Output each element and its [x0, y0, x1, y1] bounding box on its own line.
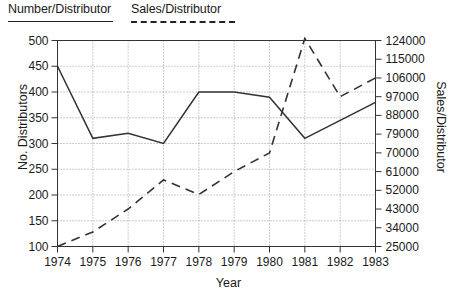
- x-axis-tick-label: 1983: [362, 255, 389, 269]
- y-axis-left-tick-label: 250: [28, 162, 48, 176]
- legend-swatch-dashed-line: [131, 21, 235, 23]
- y-axis-left-tick-label: 400: [28, 85, 48, 99]
- y-axis-left-tick-label: 150: [28, 214, 48, 228]
- x-axis-tick-label: 1980: [256, 255, 283, 269]
- x-axis-tick-label: 1979: [221, 255, 248, 269]
- x-axis-tick-label: 1974: [44, 255, 71, 269]
- legend-label-number-distributor: Number/Distributor: [8, 2, 113, 17]
- legend-entry-sales-distributor: Sales/Distributor: [131, 2, 235, 23]
- y-axis-right-tick-label: 106000: [386, 71, 426, 85]
- chart-legend: Number/Distributor Sales/Distributor: [8, 2, 449, 34]
- y-axis-right-tick-label: 25000: [386, 240, 420, 254]
- x-axis-tick-label: 1977: [150, 255, 177, 269]
- y-axis-right-tick-label: 70000: [386, 146, 420, 160]
- gridlines: [58, 41, 376, 247]
- x-axis-tick-label: 1978: [185, 255, 212, 269]
- y-axis-left-tick-label: 300: [28, 137, 48, 151]
- series-line-number-distributor: [58, 66, 376, 143]
- y-axis-right-tick-label: 52000: [386, 183, 420, 197]
- x-axis-tick-label: 1976: [115, 255, 142, 269]
- chart-plot-area: No. Distributors Sales/Distributor Year …: [0, 36, 457, 299]
- y-axis-right-tick-label: 124000: [386, 36, 426, 48]
- line-chart-svg: 1001502002503003504004505002500034000430…: [0, 36, 457, 299]
- legend-label-sales-distributor: Sales/Distributor: [131, 2, 235, 17]
- x-axis-tick-label: 1981: [291, 255, 318, 269]
- y-axis-left-tick-label: 500: [28, 36, 48, 48]
- legend-entry-number-distributor: Number/Distributor: [8, 2, 113, 22]
- y-axis-right-tick-label: 88000: [386, 108, 420, 122]
- y-axis-right-tick-label: 34000: [386, 221, 420, 235]
- y-axis-left-tick-label: 100: [28, 240, 48, 254]
- y-axis-left-tick-label: 200: [28, 188, 48, 202]
- y-axis-right-tick-label: 115000: [386, 52, 425, 66]
- x-axis-tick-label: 1975: [79, 255, 106, 269]
- y-axis-left-tick-label: 350: [28, 111, 48, 125]
- series-line-sales-distributor: [58, 38, 376, 246]
- y-axis-right-tick-label: 79000: [386, 127, 420, 141]
- y-axis-left-tick-label: 450: [28, 59, 48, 73]
- y-axis-right-tick-label: 43000: [386, 202, 420, 216]
- y-axis-right-tick-label: 61000: [386, 165, 420, 179]
- legend-swatch-solid-line: [8, 21, 113, 22]
- y-axis-right-tick-label: 97000: [386, 90, 420, 104]
- x-axis-tick-label: 1982: [327, 255, 354, 269]
